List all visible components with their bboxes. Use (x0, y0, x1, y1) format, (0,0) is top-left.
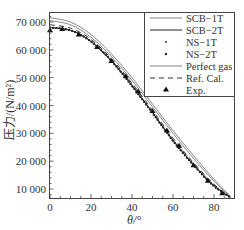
series-ns-2t-point (131, 86, 133, 88)
series-ns-2t-point (105, 54, 107, 56)
series-ns-2t-point (156, 119, 158, 121)
x-tick-label: 40 (127, 201, 139, 213)
series-ns-2t-point (118, 68, 120, 70)
series-ns-2t-point (102, 52, 104, 54)
legend-swatch-ns1t (165, 41, 167, 43)
series-ns-2t-point (186, 157, 188, 159)
series-ns-2t-point (129, 83, 131, 85)
y-tick-label: 10 000 (16, 183, 47, 195)
series-ns-2t-point (83, 35, 85, 37)
series-ns-2t-point (160, 124, 162, 126)
y-axis-title: 压力/(N/m²) (3, 80, 17, 140)
series-ns-2t-point (201, 173, 203, 175)
series-ns-2t-point (162, 127, 164, 129)
legend-label: SCB−1T (186, 13, 224, 24)
series-ns-2t-point (59, 27, 61, 29)
series-ns-2t-point (115, 66, 117, 68)
series-ns-2t-point (113, 63, 115, 65)
series-ns-2t-point (122, 73, 124, 75)
series-ns-2t-point (143, 101, 145, 103)
x-tick-label: 80 (209, 201, 221, 213)
x-tick-label: 0 (47, 201, 53, 213)
series-ns-2t-point (145, 103, 147, 105)
series-ns-2t-point (93, 43, 95, 45)
series-ns-2t-point (168, 134, 170, 136)
series-ns-2t-point (180, 149, 182, 151)
legend-label: SCB−2T (186, 25, 224, 36)
series-ns-2t-point (184, 154, 186, 156)
series-ns-2t-point (120, 71, 122, 73)
series-ns-2t-point (141, 98, 143, 100)
series-ns-2t-point (188, 159, 190, 161)
series-ns-2t-point (91, 41, 93, 43)
y-tick-label: 70 000 (16, 16, 47, 28)
series-ns-2t-point (126, 78, 128, 80)
series-ns-2t-point (197, 169, 199, 171)
series-ns-2t-point (170, 137, 172, 139)
y-tick-label: 40 000 (16, 100, 47, 112)
legend-label: NS−2T (186, 49, 218, 60)
series-ns-2t-point (147, 106, 149, 108)
y-tick-label: 20 000 (16, 155, 47, 167)
series-ns-2t-point (225, 194, 227, 196)
y-tick-label: 50 000 (16, 72, 47, 84)
x-tick-labels: 0 20 40 60 80 (47, 201, 220, 213)
series-ns-2t-point (174, 142, 176, 144)
series-ns-2t-point (203, 176, 205, 178)
legend-label: NS−1T (186, 37, 218, 48)
series-ns-2t-point (182, 152, 184, 154)
series-ns-2t-point (55, 27, 57, 29)
series-ns-2t-point (158, 121, 160, 123)
series-ns-2t-point (153, 114, 155, 116)
pressure-chart: 70 000 60 000 50 000 40 000 30 000 20 00… (0, 0, 244, 230)
series-ns-2t-point (65, 28, 67, 30)
series-ns-2t-point (190, 161, 192, 163)
series-ns-2t-point (155, 116, 157, 118)
legend-label: Ref. Cal. (186, 73, 224, 84)
series-ns-2t-point (88, 39, 90, 41)
x-axis-title: θ/° (127, 213, 141, 227)
series-ns-2t-point (52, 27, 54, 29)
series-ns-2t-point (139, 96, 141, 98)
series-ns-2t-point (217, 189, 219, 191)
series-ns-2t-point (149, 109, 151, 111)
series-ns-2t-point (172, 139, 174, 141)
series-ns-2t-point (74, 31, 76, 33)
series-ns-2t-point (107, 56, 109, 58)
y-tick-label: 30 000 (16, 127, 47, 139)
x-tick-label: 60 (168, 201, 180, 213)
x-tick-label: 20 (86, 201, 98, 213)
series-ns-2t-point (68, 29, 70, 31)
y-tick-labels: 70 000 60 000 50 000 40 000 30 000 20 00… (16, 16, 47, 195)
series-ns-2t-point (210, 182, 212, 184)
series-ns-2t-point (199, 171, 201, 173)
legend-label: Perfect gas (186, 61, 232, 72)
legend: SCB−1T SCB−2T NS−1T NS−2T Perfect gas Re… (145, 13, 235, 97)
y-tick-label: 60 000 (16, 44, 47, 56)
series-ns-2t-point (133, 88, 135, 90)
series-ns-2t-point (71, 30, 73, 32)
series-ns-2t-point (100, 49, 102, 51)
legend-label: Exp. (186, 85, 206, 96)
legend-swatch-ns2t (165, 53, 167, 55)
series-ns-2t-point (128, 81, 130, 83)
series-ns-2t-point (85, 37, 87, 39)
